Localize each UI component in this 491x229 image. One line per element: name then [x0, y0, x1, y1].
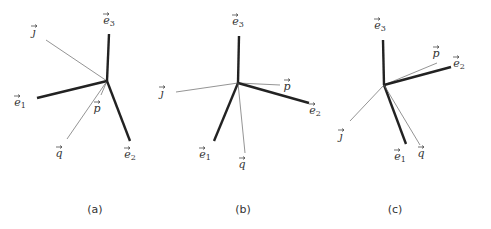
- vector-e1-line: [37, 81, 107, 98]
- vector-j-label: ȷ: [30, 26, 36, 39]
- vector-q-label: q: [55, 147, 62, 160]
- vector-q-label: q: [417, 147, 424, 160]
- vector-p-label: p: [93, 102, 100, 115]
- vector-e3-line: [238, 36, 239, 83]
- vector-j-line: [176, 83, 238, 92]
- vector-e3-label: e3: [103, 14, 115, 28]
- panel-b: e3ȷpe2e1q(b): [158, 14, 321, 217]
- vector-j-label: ȷ: [158, 87, 164, 100]
- vector-e2-label: e2: [453, 57, 465, 71]
- vector-e1-label: e1: [394, 150, 406, 164]
- vector-e2-line: [107, 81, 130, 141]
- vector-p-label: p: [432, 47, 439, 60]
- panel-a: e3ȷe1pqe2(a): [14, 13, 136, 217]
- vector-e3-label: e3: [232, 15, 244, 29]
- vector-e1-line: [214, 83, 238, 141]
- vector-e2-line: [238, 83, 309, 103]
- panel-c: e3pe2ȷe1q(c): [337, 18, 465, 217]
- vector-q-line: [238, 83, 245, 153]
- vector-e2-label: e2: [309, 104, 321, 118]
- vector-j-line: [46, 40, 107, 81]
- vector-e3-line: [107, 34, 109, 81]
- panel-caption: (a): [87, 203, 102, 216]
- vector-j-label: ȷ: [337, 130, 343, 143]
- vector-e3-line: [383, 40, 384, 85]
- vector-q-label: q: [238, 158, 245, 171]
- vector-e1-line: [384, 85, 406, 144]
- vector-e3-label: e3: [374, 19, 386, 33]
- vector-j-line: [350, 85, 384, 121]
- vector-e2-label: e2: [124, 148, 136, 162]
- vector-e1-label: e1: [14, 96, 26, 110]
- vector-e1-label: e1: [199, 148, 211, 162]
- vector-diagram-figure: e3ȷe1pqe2(a)e3ȷpe2e1q(b)e3pe2ȷe1q(c): [0, 0, 491, 229]
- vector-p-label: p: [283, 80, 290, 93]
- panel-caption: (b): [235, 203, 251, 216]
- panel-caption: (c): [388, 203, 403, 216]
- vector-e2-line: [384, 67, 451, 85]
